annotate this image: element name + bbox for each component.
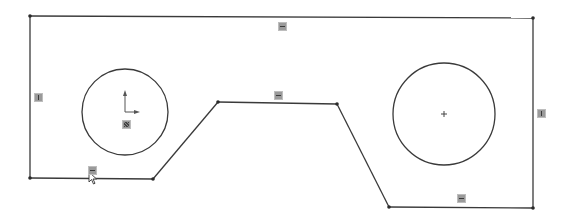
relation-vertical-right-icon[interactable] (537, 109, 546, 118)
sketch-line-5[interactable] (218, 102, 337, 104)
sketch-point-8[interactable] (28, 176, 32, 180)
horizontal-glyph-icon (90, 170, 95, 171)
sketch-profile[interactable] (28, 14, 535, 210)
sketch-point-6[interactable] (216, 100, 220, 104)
circle-center-mark-icon (441, 111, 447, 117)
sketch-point-5[interactable] (335, 102, 339, 106)
relation-horizontal-middle-icon[interactable] (274, 91, 283, 100)
relation-vertical-left-icon[interactable] (34, 93, 43, 102)
horizontal-glyph-icon (276, 95, 281, 96)
horizontal-glyph-icon (459, 198, 464, 199)
sketch-point-2[interactable] (531, 16, 535, 20)
sketch-circles[interactable] (82, 63, 495, 165)
relation-fix-origin-icon[interactable] (122, 120, 131, 129)
relation-horizontal-bottom-right-icon[interactable] (457, 194, 466, 203)
relation-horizontal-top-icon[interactable] (278, 22, 287, 31)
sketch-line-6[interactable] (153, 102, 218, 179)
sketch-line-4[interactable] (337, 104, 389, 207)
sketch-canvas[interactable] (0, 0, 571, 217)
vertical-glyph-icon (38, 95, 39, 100)
sketch-line-1[interactable] (30, 16, 533, 18)
origin-icon (123, 90, 140, 114)
vertical-glyph-icon (541, 111, 542, 116)
relation-horizontal-bottom-left-icon[interactable] (88, 166, 97, 175)
sketch-point-7[interactable] (151, 177, 155, 181)
sketch-point-4[interactable] (387, 205, 391, 209)
sketch-point-1[interactable] (28, 14, 32, 18)
sketch-line-3[interactable] (389, 207, 533, 208)
horizontal-glyph-icon (280, 26, 285, 27)
fix-glyph-icon (124, 122, 129, 127)
sketch-point-3[interactable] (531, 206, 535, 210)
sketch-geometry[interactable] (0, 0, 571, 217)
